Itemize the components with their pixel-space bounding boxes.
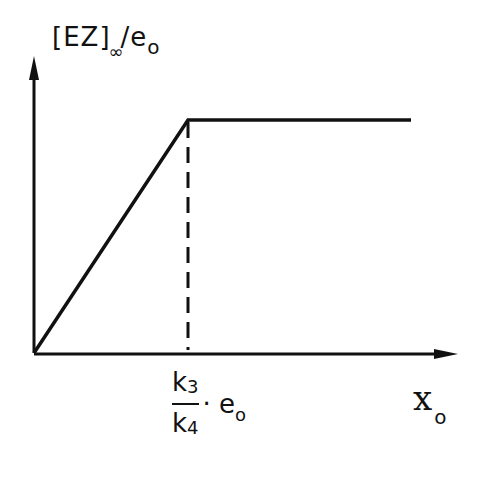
multiply-dot: ·: [203, 389, 211, 419]
y-label-main: [EZ]: [52, 22, 111, 52]
y-label-subscript: ∞: [109, 41, 125, 62]
denominator-sub: 4: [187, 417, 198, 438]
y-axis-label: [EZ]∞/eo: [52, 22, 161, 52]
numerator-k: k: [172, 367, 187, 397]
fraction-denominator: k4: [172, 407, 199, 442]
fraction-bar: [172, 403, 199, 405]
x-axis-arrow-icon: [434, 349, 458, 359]
y-label-sub-o: o: [147, 35, 160, 59]
factor-sub-o: o: [235, 404, 246, 425]
denominator-k: k: [172, 408, 187, 438]
curve-line: [34, 120, 411, 353]
x-axis-label: xo: [413, 378, 446, 418]
factor-e: e: [219, 389, 235, 419]
fraction-numerator: k3: [172, 366, 199, 401]
knee-tick-label: k3 k4 · eo: [172, 366, 246, 442]
numerator-sub: 3: [187, 376, 198, 397]
y-axis-arrow-icon: [29, 56, 39, 80]
x-label-main: x: [413, 378, 432, 418]
x-label-sub-o: o: [434, 405, 446, 429]
ratio-fraction: k3 k4: [172, 366, 199, 442]
factor-term: · eo: [203, 389, 247, 419]
